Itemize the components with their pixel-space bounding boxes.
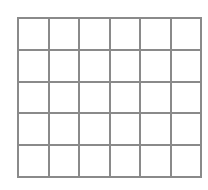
grid-cell xyxy=(19,114,50,146)
grid-cell xyxy=(19,83,50,115)
grid-cell xyxy=(50,146,81,178)
grid-cell xyxy=(111,114,142,146)
grid-cell xyxy=(50,51,81,83)
grid-cell xyxy=(141,19,172,51)
grid-cell xyxy=(172,114,203,146)
grid-cell xyxy=(111,19,142,51)
grid-cell xyxy=(141,51,172,83)
grid-cell xyxy=(19,51,50,83)
grid-cell xyxy=(80,114,111,146)
grid-cell xyxy=(80,19,111,51)
grid-cell xyxy=(172,51,203,83)
grid-cell xyxy=(19,19,50,51)
grid-cell xyxy=(19,146,50,178)
grid-cell xyxy=(111,51,142,83)
grid-cell xyxy=(80,146,111,178)
grid-cell xyxy=(141,83,172,115)
grid-cell xyxy=(141,146,172,178)
grid-cell xyxy=(50,114,81,146)
empty-grid xyxy=(17,17,202,178)
grid-cell xyxy=(80,51,111,83)
grid-cell xyxy=(111,83,142,115)
grid-cell xyxy=(172,83,203,115)
grid-cell xyxy=(111,146,142,178)
grid-cell xyxy=(141,114,172,146)
grid-cell xyxy=(172,146,203,178)
grid-cell xyxy=(80,83,111,115)
grid-cell xyxy=(50,19,81,51)
grid-cell xyxy=(50,83,81,115)
grid-cell xyxy=(172,19,203,51)
